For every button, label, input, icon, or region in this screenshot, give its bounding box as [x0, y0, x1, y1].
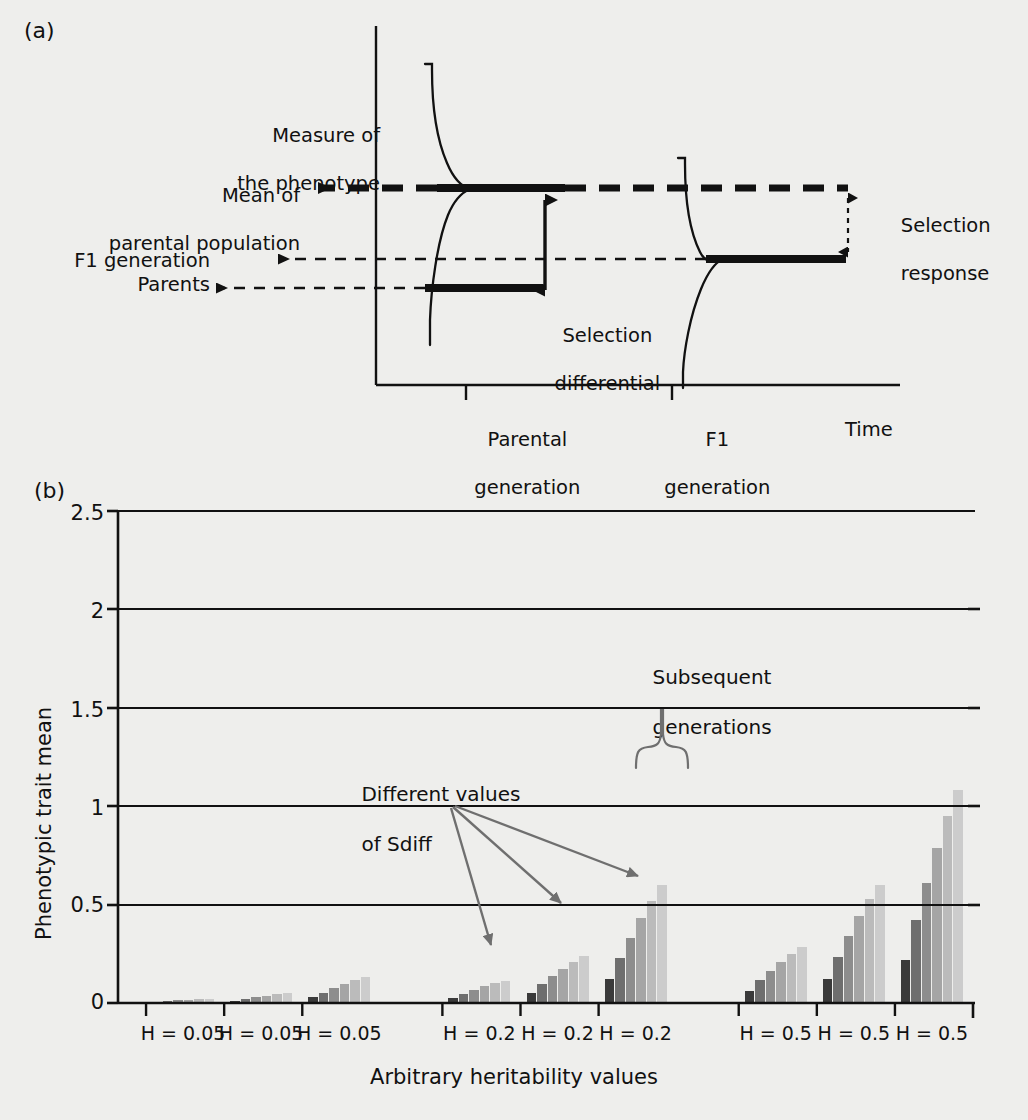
bar [569, 962, 579, 1003]
bar [579, 956, 589, 1003]
bar [922, 883, 932, 1003]
bar [833, 957, 843, 1003]
bar [184, 1000, 194, 1003]
bar [901, 960, 911, 1003]
bar [469, 990, 479, 1003]
bar [329, 988, 339, 1003]
bar [501, 981, 511, 1003]
bar [865, 899, 875, 1003]
bar [194, 999, 204, 1003]
bar [340, 984, 350, 1003]
bar [647, 901, 657, 1003]
bar [787, 954, 797, 1003]
bar [205, 999, 215, 1003]
bar [657, 885, 667, 1003]
bar [615, 958, 625, 1003]
bar [163, 1001, 173, 1003]
bar [350, 980, 360, 1003]
bar [173, 1000, 183, 1003]
bar [537, 984, 547, 1003]
bar [823, 979, 833, 1003]
bar [626, 938, 636, 1003]
bar [875, 885, 885, 1003]
bar [844, 936, 854, 1003]
bar [283, 993, 293, 1003]
bar [272, 994, 282, 1003]
bar [776, 962, 786, 1003]
bar [490, 983, 500, 1003]
bar [548, 976, 558, 1003]
bar [636, 918, 646, 1003]
bar [797, 947, 807, 1003]
bar [480, 986, 490, 1003]
figure-root: (a) (b) Measure of the phenotype Mean of… [0, 0, 1028, 1120]
bar [459, 994, 469, 1003]
bar [911, 920, 921, 1003]
bar [527, 993, 537, 1003]
bar [932, 848, 942, 1003]
bar [152, 1002, 162, 1003]
bar [262, 996, 272, 1003]
bar [448, 998, 458, 1003]
bar [319, 993, 329, 1003]
bar [605, 979, 615, 1003]
bar [558, 969, 568, 1003]
bar [943, 816, 953, 1003]
bar [361, 977, 371, 1003]
bar [953, 790, 963, 1003]
bar [241, 999, 251, 1003]
bar [230, 1001, 240, 1003]
bar [854, 916, 864, 1003]
bar [251, 997, 261, 1003]
bar [766, 971, 776, 1003]
bar [308, 997, 318, 1003]
bar-series-layer [0, 0, 1028, 1120]
bar [745, 991, 755, 1003]
bar [755, 980, 765, 1003]
